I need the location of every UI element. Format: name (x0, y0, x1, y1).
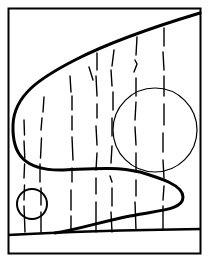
diagram-canvas (0, 0, 211, 261)
bottom-band-line (8, 229, 201, 235)
vertical-dashed-strokes (24, 28, 164, 232)
large-circle (113, 88, 197, 172)
small-circle (17, 189, 47, 219)
line-drawing (0, 0, 211, 261)
